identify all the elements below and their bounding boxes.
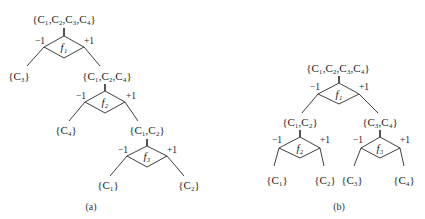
tree-b-f1-neg-label: −1	[310, 82, 320, 92]
tree-a-node-c1c2: {C₁,C₂}	[129, 124, 165, 136]
tree-b-node-c3c4: {C₃,C₄}	[362, 116, 398, 128]
decision-tree-diagrams: {C₁,C₂,C₃,C₄} f₁ −1 +1 {C₃} {C₁,C₂,C₄} f…	[0, 0, 425, 219]
tree-a-edge-f3-right	[167, 156, 184, 176]
tree-b-classifier-f1: f₁	[336, 88, 343, 100]
tree-a-edge-f2-right	[125, 102, 138, 121]
tree-a-edge-f2-left	[69, 102, 85, 121]
tree-a: {C₁,C₂,C₃,C₄} f₁ −1 +1 {C₃} {C₁,C₂,C₄} f…	[8, 13, 200, 213]
tree-a-edge-f1-right	[84, 47, 100, 66]
tree-b-edge-f2-left	[274, 148, 279, 166]
tree-b-edge-f2-right	[320, 148, 324, 166]
tree-b-node-c1c2: {C₁,C₂}	[282, 116, 318, 128]
tree-a-f1-neg-label: −1	[35, 36, 45, 46]
tree-b: {C₁,C₂,C₃,C₄} f₁ −1 +1 {C₁,C₂} f₂ −1 +1 …	[266, 62, 415, 213]
tree-b-f2-pos-label: +1	[320, 135, 330, 145]
tree-b-f3-neg-label: −1	[353, 135, 363, 145]
tree-b-edge-f3-left	[354, 148, 361, 166]
tree-a-f2-pos-label: +1	[126, 91, 136, 101]
tree-b-caption: (b)	[333, 201, 345, 213]
tree-b-edge-f1-right	[359, 94, 378, 113]
tree-b-edge-f3-right	[400, 148, 404, 166]
tree-a-caption: (a)	[85, 201, 96, 213]
tree-b-f3-pos-label: +1	[400, 135, 410, 145]
tree-a-edge-f3-left	[110, 156, 127, 176]
tree-b-leaf-c3: {C₃}	[341, 174, 363, 186]
tree-a-leaf-c2: {C₂}	[178, 179, 200, 191]
tree-a-node-c1c2c4: {C₁,C₂,C₄}	[82, 70, 132, 82]
tree-a-leaf-c3: {C₃}	[8, 70, 30, 82]
tree-b-f1-pos-label: +1	[359, 82, 369, 92]
tree-a-f3-pos-label: +1	[167, 145, 177, 155]
tree-b-leaf-c4: {C₄}	[393, 174, 415, 186]
tree-b-f2-neg-label: −1	[272, 135, 282, 145]
tree-a-leaf-c1: {C₁}	[97, 179, 119, 191]
tree-a-f3-neg-label: −1	[118, 145, 128, 155]
tree-a-classifier-f1: f₁	[61, 41, 68, 53]
tree-b-leaf-c1: {C₁}	[266, 174, 288, 186]
tree-a-node-root: {C₁,C₂,C₃,C₄}	[32, 13, 96, 25]
tree-b-node-root: {C₁,C₂,C₃,C₄}	[306, 62, 370, 74]
tree-b-leaf-c2: {C₂}	[314, 174, 336, 186]
tree-a-f2-neg-label: −1	[76, 91, 86, 101]
tree-a-classifier-f2: f₂	[102, 96, 109, 108]
tree-a-f1-pos-label: +1	[84, 36, 94, 46]
tree-a-classifier-f3: f₃	[144, 150, 151, 162]
tree-b-classifier-f3: f₃	[377, 142, 384, 154]
tree-b-edge-f1-left	[302, 94, 318, 113]
tree-a-leaf-c4: {C₄}	[55, 124, 77, 136]
tree-b-classifier-f2: f₂	[297, 142, 304, 154]
tree-a-edge-f1-left	[27, 47, 44, 66]
